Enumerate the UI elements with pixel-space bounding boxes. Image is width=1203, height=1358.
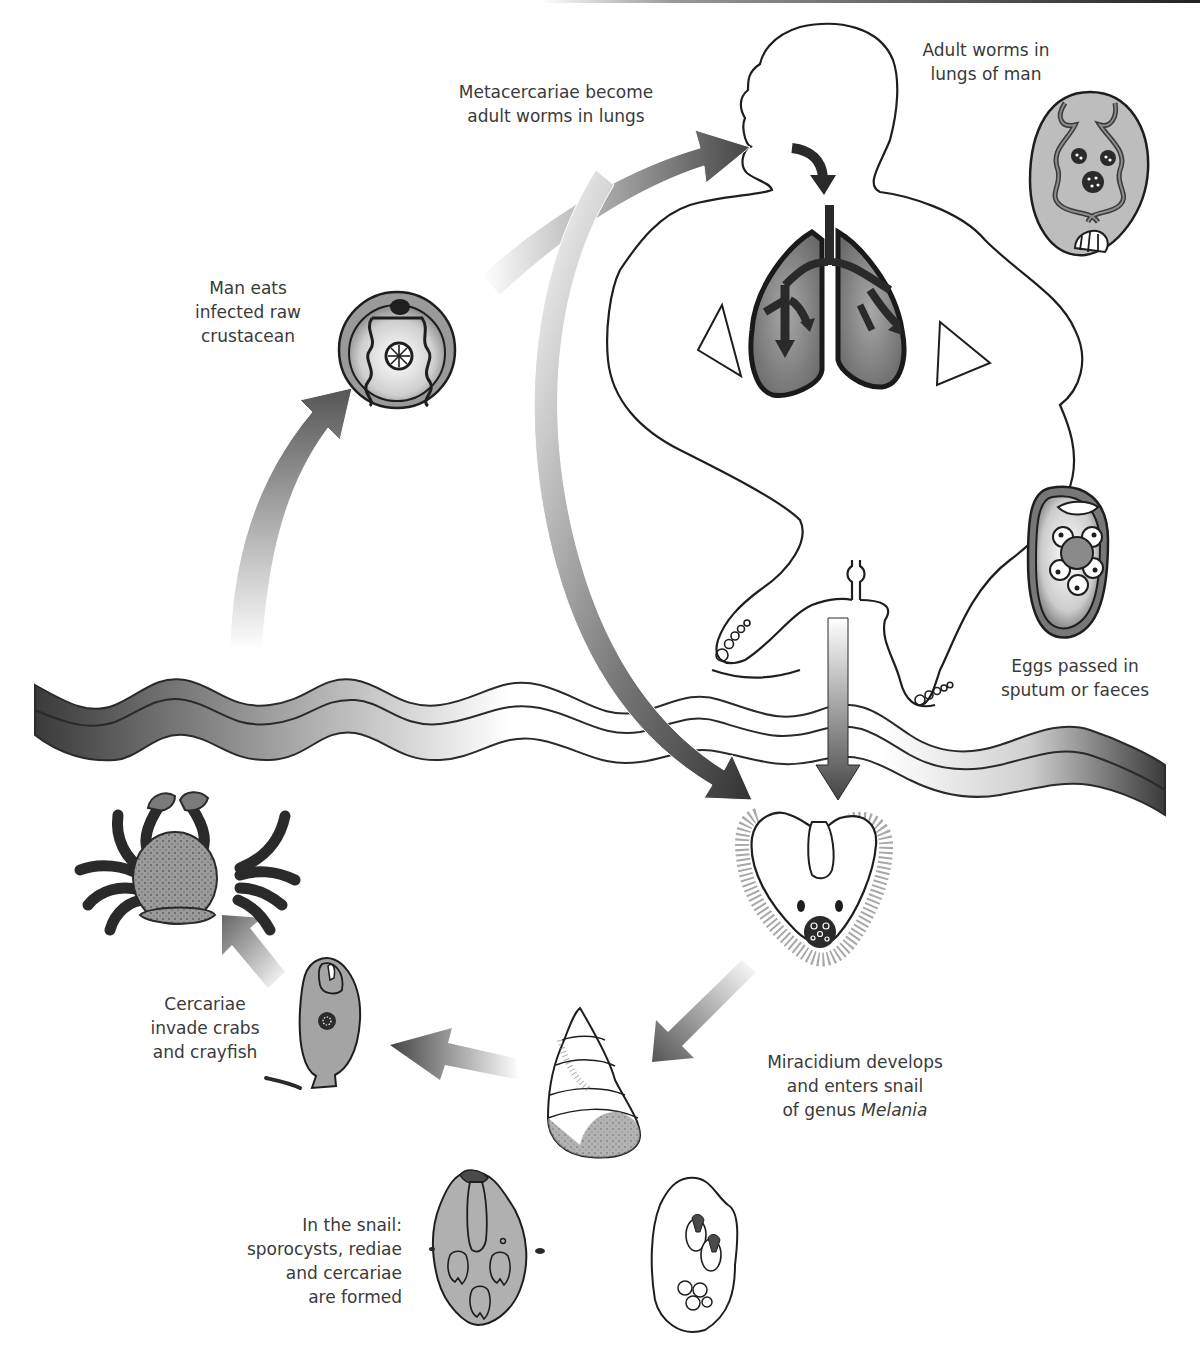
label-line: adult worms in lungs <box>440 104 672 128</box>
label-line: Metacercariae become <box>440 80 672 104</box>
egg <box>1028 487 1108 638</box>
label-man-eats: Man eats infected raw crustacean <box>170 276 326 348</box>
label-adult-worms: Adult worms in lungs of man <box>880 38 1092 86</box>
label-line: are formed <box>230 1285 402 1309</box>
label-line: sporocysts, rediae <box>230 1237 402 1261</box>
arrow-crustacean-to-mouth <box>482 130 750 295</box>
label-line: Adult worms in <box>880 38 1092 62</box>
cercaria <box>300 958 360 1088</box>
sporocyst <box>652 1178 738 1332</box>
arrow-snail-to-cercaria <box>390 1028 520 1080</box>
cercaria-tail <box>266 1078 300 1088</box>
label-line: and crayfish <box>125 1040 285 1064</box>
label-line: infected raw <box>170 300 326 324</box>
redia <box>433 1170 526 1325</box>
label-line: and cercariae <box>230 1261 402 1285</box>
snail <box>548 1008 640 1158</box>
genus-name: Melania <box>861 1100 927 1120</box>
lungs <box>751 205 904 395</box>
top-rule <box>540 0 1200 3</box>
arrow-miracidium-to-snail <box>652 960 756 1062</box>
label-cercariae: Cercariae invade crabs and crayfish <box>125 992 285 1064</box>
label-line: sputum or faeces <box>960 678 1190 702</box>
label-line: of genus Melania <box>745 1098 965 1122</box>
left-foot-toes <box>716 620 750 661</box>
label-text: of genus <box>782 1100 861 1120</box>
label-in-the-snail: In the snail: sporocysts, rediae and cer… <box>230 1213 402 1309</box>
label-line: In the snail: <box>230 1213 402 1237</box>
label-line: crustacean <box>170 324 326 348</box>
label-eggs-passed: Eggs passed in sputum or faeces <box>960 654 1190 702</box>
metacercaria-cyst <box>339 292 455 408</box>
adult-worm <box>1030 92 1148 255</box>
swallow-arrow <box>792 148 836 195</box>
label-line: and enters snail <box>745 1074 965 1098</box>
arrow-cercaria-to-crab <box>222 915 285 988</box>
crab-abdomen <box>140 908 215 924</box>
label-line: Miracidium develops <box>745 1050 965 1074</box>
crab-claws <box>148 792 208 810</box>
label-line: Man eats <box>170 276 326 300</box>
arrow-water-to-crustacean <box>230 388 352 650</box>
label-metacercariae: Metacercariae become adult worms in lung… <box>440 80 672 128</box>
label-line: Eggs passed in <box>960 654 1190 678</box>
right-rib-triangle <box>937 322 990 385</box>
left-rib-triangle <box>698 305 741 376</box>
label-miracidium: Miracidium develops and enters snail of … <box>745 1050 965 1122</box>
miracidium <box>742 813 886 960</box>
label-line: Cercariae <box>125 992 285 1016</box>
redia-side-speck-right <box>535 1248 545 1254</box>
label-line: lungs of man <box>880 62 1092 86</box>
label-line: invade crabs <box>125 1016 285 1040</box>
redia-side-speck-left <box>429 1247 435 1251</box>
